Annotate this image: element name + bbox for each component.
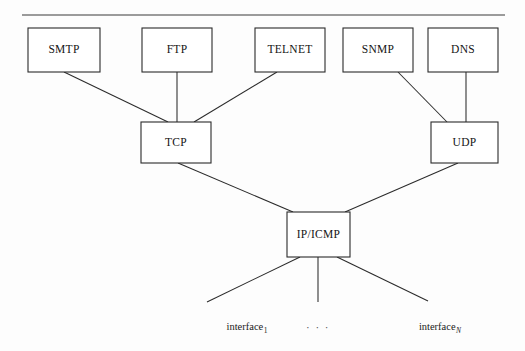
node-label-ip-icmp: IP/ICMP xyxy=(297,228,341,240)
interface-label-interface-n: interfaceN xyxy=(419,321,462,335)
node-label-dns: DNS xyxy=(451,43,475,55)
connector-tcp-to-ip-icmp xyxy=(178,163,293,212)
network-layer-group: IP/ICMP xyxy=(287,212,350,257)
node-snmp[interactable]: SNMP xyxy=(343,28,413,72)
node-ftp[interactable]: FTP xyxy=(142,28,212,72)
connector-ip-icmp-to-interface-n xyxy=(337,257,428,301)
node-dns[interactable]: DNS xyxy=(428,28,498,72)
node-telnet[interactable]: TELNET xyxy=(255,28,325,72)
transport-layer-group: TCPUDP xyxy=(141,122,498,163)
interface-labels-group: interface1interfaceN xyxy=(227,321,463,335)
node-label-telnet: TELNET xyxy=(267,43,312,55)
node-label-snmp: SNMP xyxy=(362,43,395,55)
connector-ip-icmp-to-interface-1 xyxy=(207,257,300,302)
node-label-udp: UDP xyxy=(453,136,477,148)
connector-udp-to-ip-icmp xyxy=(345,163,458,212)
node-udp[interactable]: UDP xyxy=(431,122,498,163)
diagram-canvas: SMTPFTPTELNETSNMPDNS TCPUDP IP/ICMP inte… xyxy=(0,0,525,351)
node-ip-icmp[interactable]: IP/ICMP xyxy=(287,212,350,257)
node-tcp[interactable]: TCP xyxy=(141,122,211,163)
connector-smtp-to-tcp xyxy=(64,72,168,122)
connector-telnet-to-tcp xyxy=(194,72,277,122)
connector-lines-group xyxy=(64,72,466,302)
node-label-smtp: SMTP xyxy=(48,43,79,55)
interface-label-interface-1: interface1 xyxy=(227,321,268,335)
ellipsis-label: · · · xyxy=(306,321,330,333)
protocol-stack-diagram: SMTPFTPTELNETSNMPDNS TCPUDP IP/ICMP inte… xyxy=(0,0,525,351)
application-layer-group: SMTPFTPTELNETSNMPDNS xyxy=(28,28,498,72)
node-label-tcp: TCP xyxy=(165,136,187,148)
connector-snmp-to-udp xyxy=(398,72,447,122)
node-label-ftp: FTP xyxy=(167,43,188,55)
node-smtp[interactable]: SMTP xyxy=(28,28,100,72)
